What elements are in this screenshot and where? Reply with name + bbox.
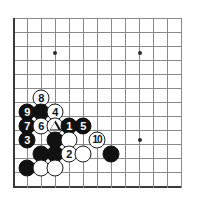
stone-move-number: 2 bbox=[66, 148, 72, 159]
grid-line-vertical bbox=[181, 18, 182, 188]
triangle-fill bbox=[50, 123, 58, 130]
stone-white-plain-b[interactable] bbox=[75, 146, 92, 163]
go-board: 89476153102 bbox=[0, 0, 208, 200]
stone-move-3[interactable]: 3 bbox=[19, 132, 36, 149]
grid-line-vertical bbox=[83, 18, 84, 188]
board-edge-left bbox=[13, 18, 15, 188]
stone-move-10[interactable]: 10 bbox=[89, 132, 106, 149]
star-point-lower-right bbox=[138, 138, 142, 142]
stone-move-number: 1 bbox=[66, 120, 72, 131]
grid-line-vertical bbox=[167, 18, 168, 188]
stone-move-number: 10 bbox=[92, 135, 101, 145]
triangle-mark-icon bbox=[49, 121, 61, 132]
grid-line-vertical bbox=[69, 18, 70, 188]
grid-line-vertical bbox=[153, 18, 154, 188]
stone-white-plain-d[interactable] bbox=[47, 160, 64, 177]
stone-move-number: 6 bbox=[38, 120, 44, 131]
stone-move-number: 3 bbox=[24, 134, 30, 145]
stone-move-number: 4 bbox=[52, 106, 58, 117]
grid-line-vertical bbox=[125, 18, 126, 188]
stone-move-number: 9 bbox=[24, 106, 30, 117]
star-point-upper-right bbox=[138, 51, 142, 55]
grid-line-vertical bbox=[97, 18, 98, 188]
grid-line-vertical bbox=[111, 18, 112, 188]
star-point-upper-left bbox=[53, 51, 57, 55]
stone-move-number: 7 bbox=[24, 120, 30, 131]
stone-move-number: 5 bbox=[80, 120, 86, 131]
stone-move-number: 8 bbox=[38, 92, 44, 103]
stone-move-5[interactable]: 5 bbox=[75, 118, 92, 135]
stone-black-plain-e[interactable] bbox=[103, 146, 120, 163]
grid-line-vertical bbox=[139, 18, 140, 188]
